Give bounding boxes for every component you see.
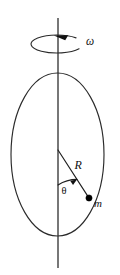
physics-diagram-canvas: ω R θ m [0,0,120,275]
radius-label: R [74,158,83,172]
theta-label: θ [62,185,67,196]
bead-mass-dot [86,195,92,201]
mass-label: m [94,197,102,209]
omega-label: ω [86,35,94,47]
figure-background [0,0,120,275]
rotating-hoop-figure: ω R θ m [0,0,120,275]
